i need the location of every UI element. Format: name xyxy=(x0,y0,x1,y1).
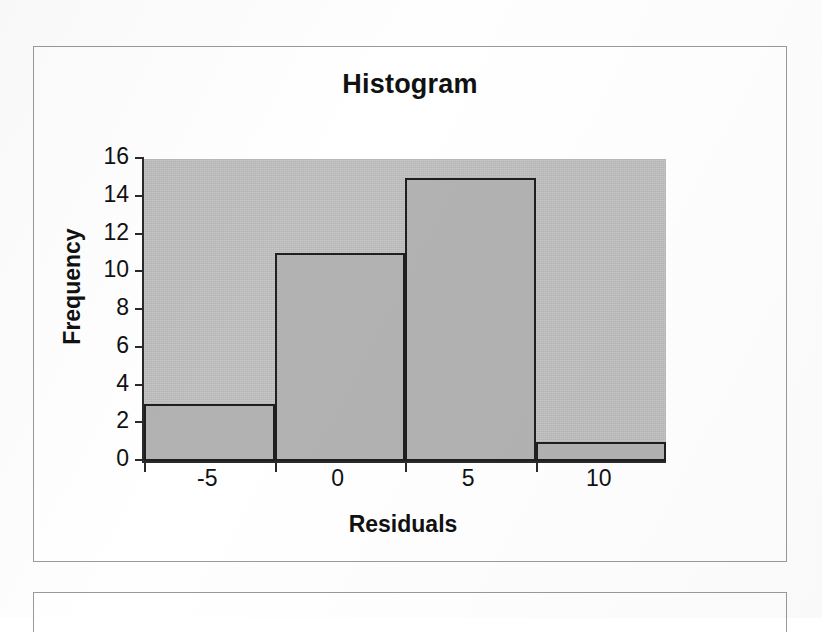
y-axis-tick: 14 xyxy=(135,195,144,197)
x-axis-title: Residuals xyxy=(142,511,664,538)
x-axis-tick xyxy=(405,461,407,472)
y-axis-tick: 10 xyxy=(135,270,144,272)
y-axis-tick-label: 0 xyxy=(85,447,129,470)
x-axis-tick-label: 0 xyxy=(298,467,378,490)
x-axis-tick xyxy=(144,461,146,472)
y-axis-title: Frequency xyxy=(59,187,86,387)
y-axis-tick-label: 16 xyxy=(85,145,129,168)
x-axis-tick-label: 10 xyxy=(559,467,639,490)
y-axis-tick: 4 xyxy=(135,384,144,386)
histogram-bar xyxy=(275,253,406,461)
plot-area: 1614121086420 xyxy=(142,159,666,463)
histogram-bar xyxy=(144,404,275,461)
x-axis-tick xyxy=(275,461,277,472)
y-axis-tick-label: 10 xyxy=(85,258,129,281)
x-axis-tick-label: 5 xyxy=(428,467,508,490)
y-axis-tick: 8 xyxy=(135,308,144,310)
next-figure-frame xyxy=(33,592,787,632)
chart-title: Histogram xyxy=(34,69,786,100)
y-axis-tick-label: 2 xyxy=(85,409,129,432)
histogram-bar xyxy=(405,178,536,461)
figure-frame: Histogram Frequency 1614121086420 -50510… xyxy=(33,46,787,562)
y-axis-tick: 6 xyxy=(135,346,144,348)
y-axis-tick: 2 xyxy=(135,421,144,423)
histogram-bar xyxy=(536,442,667,461)
y-axis-tick-label: 12 xyxy=(85,221,129,244)
y-axis-tick-label: 4 xyxy=(85,372,129,395)
y-axis-tick: 16 xyxy=(135,157,144,159)
x-axis-tick xyxy=(536,461,538,472)
y-axis-tick: 12 xyxy=(135,233,144,235)
x-axis-tick-label: -5 xyxy=(167,467,247,490)
y-axis-tick-label: 6 xyxy=(85,334,129,357)
y-axis-tick-label: 14 xyxy=(85,183,129,206)
y-axis-tick-label: 8 xyxy=(85,296,129,319)
y-axis-tick: 0 xyxy=(135,459,144,461)
